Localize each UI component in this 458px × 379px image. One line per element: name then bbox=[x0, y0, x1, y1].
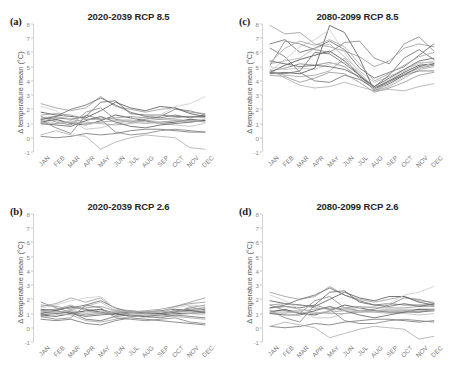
y-tick-label: 1 bbox=[27, 120, 30, 127]
plot-area-c: 876543210-1 bbox=[262, 24, 442, 152]
x-tick-label: OCT bbox=[170, 154, 185, 169]
y-axis-label-a: Δ temperature mean (°C) bbox=[16, 37, 25, 149]
series-line bbox=[270, 25, 434, 90]
x-tick-label: JUN bbox=[112, 154, 126, 168]
y-tick-label: 7 bbox=[256, 225, 259, 232]
y-tick-label: -1 bbox=[253, 149, 259, 156]
x-tick-label: FEB bbox=[281, 154, 295, 168]
x-tick-label: JUN bbox=[341, 154, 355, 168]
panel-label-d: (d) bbox=[239, 206, 251, 217]
y-tick-label: 7 bbox=[27, 35, 30, 42]
x-tick-group-b: JANFEBMARAPRMAYJUNJULAUGSEPOCTNOVDEC bbox=[33, 344, 213, 374]
x-tick-label: AUG bbox=[140, 344, 155, 359]
y-tick-label: 6 bbox=[256, 49, 259, 56]
y-tick-label: -1 bbox=[24, 339, 30, 346]
y-tick-label: 8 bbox=[256, 211, 259, 218]
x-tick-label: MAR bbox=[66, 154, 81, 169]
plot-area-b: 876543210-1 bbox=[33, 214, 213, 342]
y-tick-label: 8 bbox=[27, 21, 30, 28]
figure-panel-grid: (a) 2020-2039 RCP 8.5 Δ temperature mean… bbox=[0, 0, 458, 379]
y-tick-label: 4 bbox=[27, 77, 30, 84]
x-tick-label: APR bbox=[310, 154, 324, 168]
panel-title-c: 2080-2099 RCP 8.5 bbox=[263, 11, 452, 22]
y-tick-label: 0 bbox=[27, 324, 30, 331]
y-tick-label: -1 bbox=[24, 149, 30, 156]
line-series-group-c bbox=[262, 24, 442, 152]
y-tick-label: 1 bbox=[256, 120, 259, 127]
y-tick-label: 2 bbox=[27, 106, 30, 113]
y-tick-label: 8 bbox=[256, 21, 259, 28]
panel-label-a: (a) bbox=[10, 16, 22, 27]
x-tick-label: JUL bbox=[127, 344, 140, 357]
y-tick-label: 2 bbox=[256, 106, 259, 113]
series-line bbox=[270, 291, 434, 308]
x-tick-label: APR bbox=[81, 344, 95, 358]
series-line bbox=[270, 51, 434, 89]
line-series-group-a bbox=[33, 24, 213, 152]
x-tick-label: MAY bbox=[96, 344, 110, 358]
y-tick-label: 0 bbox=[256, 134, 259, 141]
y-axis-label-b: Δ temperature mean (°C) bbox=[16, 227, 25, 339]
x-tick-label: DEC bbox=[200, 344, 215, 359]
line-series-group-b bbox=[33, 214, 213, 342]
x-tick-label: JUN bbox=[112, 344, 126, 358]
panel-label-b: (b) bbox=[10, 206, 22, 217]
x-tick-label: FEB bbox=[52, 154, 66, 168]
panel-title-d: 2080-2099 RCP 2.6 bbox=[263, 201, 452, 212]
x-tick-label: OCT bbox=[399, 154, 414, 169]
y-tick-label: 5 bbox=[27, 63, 30, 70]
chart-panel-b: (b) 2020-2039 RCP 2.6 Δ temperature mean… bbox=[0, 190, 229, 379]
y-tick-label: 0 bbox=[256, 324, 259, 331]
x-tick-label: FEB bbox=[52, 344, 66, 358]
y-tick-label: 7 bbox=[27, 225, 30, 232]
x-tick-label: JAN bbox=[37, 154, 51, 168]
panel-title-b: 2020-2039 RCP 2.6 bbox=[34, 201, 223, 212]
x-tick-label: SEP bbox=[385, 344, 399, 358]
x-tick-label: DEC bbox=[429, 344, 444, 359]
series-line bbox=[270, 322, 434, 339]
y-tick-label: 3 bbox=[27, 282, 30, 289]
x-tick-label: NOV bbox=[185, 344, 200, 359]
x-tick-label: SEP bbox=[156, 154, 170, 168]
x-tick-label: MAR bbox=[295, 154, 310, 169]
x-tick-label: JAN bbox=[266, 154, 280, 168]
x-tick-label: JUL bbox=[356, 344, 369, 357]
x-tick-label: MAY bbox=[325, 154, 339, 168]
panel-label-c: (c) bbox=[239, 16, 250, 27]
x-tick-group-d: JANFEBMARAPRMAYJUNJULAUGSEPOCTNOVDEC bbox=[262, 344, 442, 374]
y-tick-label: 3 bbox=[256, 92, 259, 99]
y-tick-label: -1 bbox=[253, 339, 259, 346]
chart-panel-d: (d) 2080-2099 RCP 2.6 Δ temperature mean… bbox=[229, 190, 458, 379]
x-tick-label: MAR bbox=[66, 344, 81, 359]
x-tick-label: APR bbox=[81, 154, 95, 168]
line-series-group-d bbox=[262, 214, 442, 342]
x-tick-label: MAY bbox=[325, 344, 339, 358]
x-tick-label: OCT bbox=[399, 344, 414, 359]
x-tick-label: MAY bbox=[96, 154, 110, 168]
y-tick-label: 6 bbox=[27, 49, 30, 56]
y-tick-label: 4 bbox=[256, 267, 259, 274]
y-tick-label: 8 bbox=[27, 211, 30, 218]
y-tick-label: 2 bbox=[27, 296, 30, 303]
x-tick-label: DEC bbox=[200, 154, 215, 169]
panel-title-a: 2020-2039 RCP 8.5 bbox=[34, 11, 223, 22]
y-tick-label: 3 bbox=[27, 92, 30, 99]
chart-panel-a: (a) 2020-2039 RCP 8.5 Δ temperature mean… bbox=[0, 0, 229, 189]
x-tick-label: SEP bbox=[156, 344, 170, 358]
x-tick-label: JUN bbox=[341, 344, 355, 358]
y-tick-label: 4 bbox=[256, 77, 259, 84]
x-tick-label: DEC bbox=[429, 154, 444, 169]
x-tick-group-a: JANFEBMARAPRMAYJUNJULAUGSEPOCTNOVDEC bbox=[33, 154, 213, 184]
y-tick-label: 5 bbox=[27, 253, 30, 260]
x-tick-label: JAN bbox=[266, 344, 280, 358]
y-tick-label: 1 bbox=[256, 310, 259, 317]
series-line bbox=[41, 121, 205, 130]
y-tick-label: 4 bbox=[27, 267, 30, 274]
y-axis-label-d: Δ temperature mean (°C) bbox=[245, 227, 254, 339]
y-tick-label: 5 bbox=[256, 253, 259, 260]
x-tick-label: JAN bbox=[37, 344, 51, 358]
x-tick-label: APR bbox=[310, 344, 324, 358]
y-tick-label: 0 bbox=[27, 134, 30, 141]
x-tick-label: AUG bbox=[369, 154, 384, 169]
y-axis-label-c: Δ temperature mean (°C) bbox=[245, 37, 254, 149]
